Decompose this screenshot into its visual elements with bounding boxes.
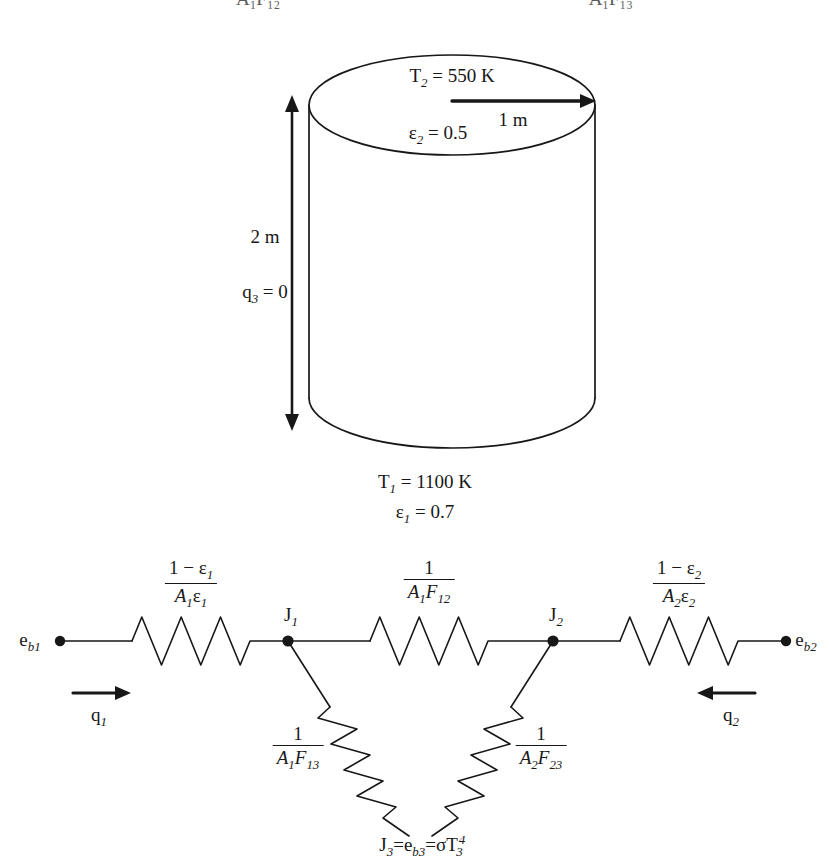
clipped-equation-row: A₁F₁₂ A₁F₁₃ A₂F₂₃ bbox=[236, 0, 656, 11]
terminal-dot-eb2 bbox=[781, 636, 791, 646]
resistor-label-space-13: 1 A1F13 bbox=[273, 723, 324, 773]
resistor-label-space-12: 1 A1F12 bbox=[404, 557, 455, 607]
bottom-node-label: J3=eb3=σT43 bbox=[379, 833, 462, 859]
resistor-label-space-23: 1 A2F23 bbox=[516, 723, 567, 773]
top-temperature-label: T2 = 550 K bbox=[409, 66, 494, 89]
cylinder-bottom-arc bbox=[309, 398, 595, 448]
terminal-label-eb1: eb1 bbox=[19, 630, 40, 653]
radius-dimension-label: 1 m bbox=[498, 110, 527, 130]
resistor-surface-1 bbox=[132, 617, 288, 665]
terminal-dot-eb1 bbox=[55, 636, 65, 646]
top-emissivity-label: ε2 = 0.5 bbox=[409, 123, 467, 146]
bottom-emissivity-label: ε1 = 0.7 bbox=[396, 502, 454, 525]
resistor-label-surface-2: 1 − ε2 A2ε2 bbox=[653, 557, 705, 611]
clipped-fragment-left: A₁F₁₂ bbox=[236, 0, 280, 9]
radiation-network-figure: A₁F₁₂ A₁F₁₃ A₂F₂₃ T2 = 550 K ε2 = 0.5 1 … bbox=[0, 0, 829, 862]
node-label-j1: J1 bbox=[284, 605, 298, 628]
height-arrow-head-bottom bbox=[285, 414, 299, 431]
node-label-j2: J2 bbox=[549, 605, 563, 628]
flux-label-q1: q1 bbox=[91, 705, 107, 728]
bottom-temperature-label: T1 = 1100 K bbox=[378, 472, 472, 495]
resistor-space-23 bbox=[432, 707, 523, 836]
flux-label-q2: q2 bbox=[723, 705, 739, 728]
height-dimension-label: 2 m bbox=[250, 227, 279, 247]
clipped-fragment-right: A₁F₁₃ bbox=[589, 0, 633, 9]
q1-arrow-head bbox=[115, 686, 131, 700]
resistor-surface-2 bbox=[620, 617, 786, 665]
node-dot-j1 bbox=[282, 635, 293, 646]
q2-arrow-head bbox=[697, 686, 713, 700]
resistor-label-surface-1: 1 − ε1 A1ε1 bbox=[165, 557, 217, 611]
node-dot-j2 bbox=[547, 635, 558, 646]
lead-j2-branch bbox=[511, 641, 553, 707]
terminal-label-eb2: eb2 bbox=[795, 630, 816, 653]
resistor-space-12 bbox=[370, 617, 553, 665]
lead-j1-branch bbox=[288, 641, 330, 707]
height-arrow-head-top bbox=[285, 95, 299, 112]
side-flux-label: q3 = 0 bbox=[242, 282, 288, 305]
resistor-space-13 bbox=[318, 707, 409, 836]
